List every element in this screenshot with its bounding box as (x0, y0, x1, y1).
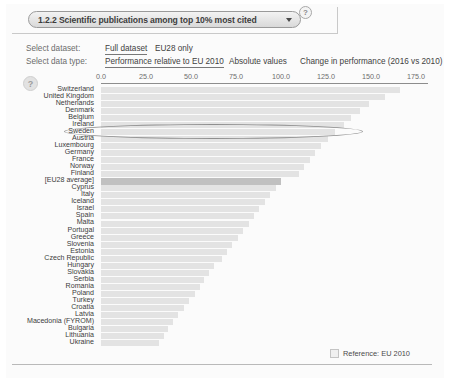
chart-row[interactable]: [EU28 average] (0, 178, 450, 185)
bar[interactable] (101, 326, 168, 332)
reference-swatch-icon (330, 349, 339, 358)
dataset-option-full[interactable]: Full dataset (105, 44, 147, 55)
chevron-down-icon[interactable] (286, 18, 292, 22)
bar[interactable] (101, 277, 204, 283)
bar[interactable] (101, 221, 249, 227)
chart-row[interactable]: Slovenia (0, 241, 450, 248)
bar[interactable] (101, 298, 189, 304)
bar[interactable] (101, 206, 259, 212)
bar[interactable] (101, 213, 254, 219)
x-axis-tick-2: 50.0 (184, 72, 198, 81)
country-label: Ukraine (70, 339, 94, 347)
bar[interactable] (101, 192, 270, 198)
indicator-dropdown[interactable]: 1.2.2 Scientific publications among top … (28, 11, 301, 28)
chart-row[interactable]: Lithuania (0, 333, 450, 340)
bar[interactable] (101, 319, 173, 325)
bar[interactable] (101, 270, 209, 276)
bar[interactable] (101, 101, 369, 107)
bar[interactable] (101, 249, 227, 255)
bar[interactable] (101, 305, 184, 311)
chart-row[interactable]: France (0, 157, 450, 164)
chart-row[interactable]: Israel (0, 206, 450, 213)
bar[interactable] (101, 235, 238, 241)
x-axis-line (101, 83, 428, 84)
bar[interactable] (101, 129, 335, 135)
x-axis-tick-5: 125.0 (317, 72, 335, 81)
bar[interactable] (101, 291, 195, 297)
chart-row[interactable]: Cyprus (0, 185, 450, 192)
bar[interactable] (101, 242, 232, 248)
bar[interactable] (101, 312, 178, 318)
chart-row[interactable]: Belgium (0, 114, 450, 121)
legend-label: Reference: EU 2010 (343, 349, 410, 358)
bar[interactable] (101, 87, 400, 93)
window-frame-top (0, 0, 450, 4)
select-dataset-label: Select dataset: (26, 44, 80, 53)
chart-row[interactable]: Slovakia (0, 269, 450, 276)
datatype-option-change-in-performance[interactable]: Change in performance (2016 vs 2010) (300, 57, 442, 66)
chart-row[interactable]: Ukraine (0, 340, 450, 347)
bar[interactable] (101, 136, 328, 142)
indicator-dropdown-label: 1.2.2 Scientific publications among top … (29, 15, 257, 25)
bar[interactable] (101, 333, 164, 339)
chart-row[interactable]: Iceland (0, 199, 450, 206)
header-divider (12, 33, 338, 34)
datatype-option-absolute-values[interactable]: Absolute values (229, 57, 287, 66)
select-datatype-label: Select data type: (26, 57, 87, 66)
header-divider-end-cap (337, 7, 338, 34)
help-icon-header[interactable]: ? (299, 6, 312, 19)
x-axis-tick-3: 75.0 (229, 72, 243, 81)
bar[interactable] (101, 256, 222, 262)
bar[interactable] (101, 171, 299, 177)
chart-row[interactable]: Portugal (0, 227, 450, 234)
bar[interactable] (101, 150, 315, 156)
bar[interactable] (101, 284, 200, 290)
chart-row[interactable]: Norway (0, 164, 450, 171)
bar[interactable] (101, 199, 265, 205)
chart-row[interactable]: Turkey (0, 298, 450, 305)
bar[interactable] (101, 143, 321, 149)
x-axis-tick-1: 25.0 (139, 72, 153, 81)
chart-row[interactable]: Romania (0, 283, 450, 290)
bar[interactable] (101, 228, 243, 234)
dataset-option-eu28[interactable]: EU28 only (155, 44, 193, 53)
bar[interactable] (101, 178, 281, 184)
x-axis-tick-labels: 0.025.050.075.0100.0125.0150.0175.0 (0, 72, 450, 83)
chart-row[interactable]: Croatia (0, 305, 450, 312)
chart-row[interactable]: Spain (0, 213, 450, 220)
bar[interactable] (101, 122, 344, 128)
indicator-selector-bar: 1.2.2 Scientific publications among top … (8, 7, 338, 35)
x-axis-tick-4: 100.0 (272, 72, 290, 81)
chart-legend: Reference: EU 2010 (330, 349, 410, 358)
indicator-chart-window: 1.2.2 Scientific publications among top … (0, 0, 450, 383)
bar[interactable] (101, 108, 360, 114)
x-axis-tick-0: 0.0 (96, 72, 106, 81)
chart-row[interactable]: Sweden (0, 128, 450, 135)
bar[interactable] (101, 115, 351, 121)
chart-row[interactable]: Germany (0, 149, 450, 156)
bar[interactable] (101, 340, 159, 346)
bar-chart-plot-area: SwitzerlandUnited KingdomNetherlandsDenm… (0, 86, 450, 346)
datatype-option-performance-relative[interactable]: Performance relative to EU 2010 (105, 57, 224, 68)
chart-row[interactable]: Poland (0, 290, 450, 297)
x-axis-tick-6: 150.0 (362, 72, 380, 81)
bar[interactable] (101, 157, 310, 163)
bar[interactable] (101, 164, 304, 170)
bar[interactable] (101, 185, 276, 191)
x-axis-tick-7: 175.0 (407, 72, 425, 81)
bar[interactable] (101, 263, 214, 269)
footer-divider (12, 364, 432, 365)
bar[interactable] (101, 94, 385, 100)
window-frame-bottom (0, 378, 450, 383)
chart-row[interactable]: Italy (0, 192, 450, 199)
